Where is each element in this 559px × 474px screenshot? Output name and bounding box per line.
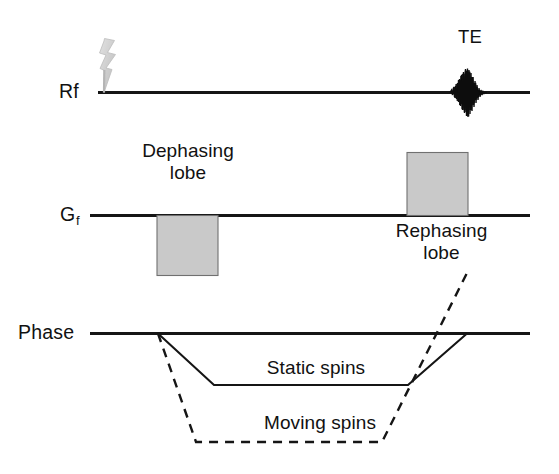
annotation-moving-spins: Moving spins [250, 412, 390, 434]
annotation-dephasing-lobe-line2: lobe [118, 162, 258, 184]
annotation-te: TE [448, 26, 492, 48]
axis-label-phase: Phase [18, 321, 74, 344]
annotation-static-spins: Static spins [246, 357, 386, 379]
annotation-dephasing-lobe-line1: Dephasing [118, 140, 258, 162]
annotation-rephasing-lobe-line1: Rephasing [374, 220, 509, 242]
axis-label-gf: Gf [60, 203, 79, 226]
pulse-sequence-diagram: Rf Gf Phase TE Dephasing lobe Rephasing … [0, 0, 559, 474]
gradient-lobe-dephasing [157, 216, 218, 276]
rf-excitation-pulse-lightning-bolt-icon [100, 39, 116, 93]
annotation-rephasing-lobe: Rephasing lobe [374, 220, 509, 264]
gradient-lobe-rephasing [407, 153, 468, 216]
rf-channel [98, 39, 530, 118]
annotation-rephasing-lobe-line2: lobe [374, 242, 509, 264]
bolt-shape [100, 39, 116, 93]
annotation-dephasing-lobe: Dephasing lobe [118, 140, 258, 184]
axis-label-rf: Rf [59, 80, 79, 103]
rf-echo-burst [450, 69, 487, 118]
